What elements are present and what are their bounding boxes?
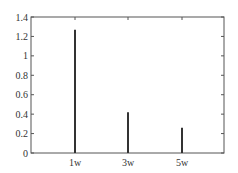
y-tick-label: 0.6 bbox=[16, 89, 29, 100]
y-tick-label: 1.2 bbox=[16, 31, 29, 42]
bars bbox=[75, 30, 182, 153]
x-tick-label: 5w bbox=[176, 157, 189, 168]
x-tick-label: 3w bbox=[122, 157, 135, 168]
stem-chart: 00.20.40.60.811.21.4 1w3w5w bbox=[0, 0, 238, 173]
y-tick-label: 0 bbox=[23, 148, 28, 159]
y-tick-label: 1 bbox=[23, 50, 28, 61]
x-tick-label: 1w bbox=[69, 157, 82, 168]
y-tick-label: 0.2 bbox=[16, 128, 29, 139]
chart-canvas: 00.20.40.60.811.21.4 1w3w5w bbox=[0, 0, 238, 173]
y-axis: 00.20.40.60.811.21.4 bbox=[16, 12, 225, 159]
y-tick-label: 0.4 bbox=[16, 109, 29, 120]
y-tick-label: 1.4 bbox=[16, 12, 29, 23]
y-tick-label: 0.8 bbox=[16, 70, 29, 81]
